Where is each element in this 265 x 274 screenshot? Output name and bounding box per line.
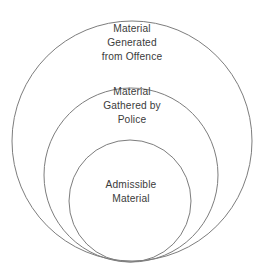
nested-circles-diagram: Material Generated from Offence Material… [0,0,265,274]
outer-circle-label: Material Generated from Offence [52,22,212,65]
inner-circle-label: Admissible Material [60,178,202,206]
middle-circle-label: Material Gathered by Police [56,85,208,128]
